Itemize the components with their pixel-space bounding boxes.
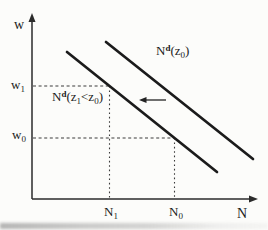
curve-z0-paren: (z (170, 43, 180, 58)
curve-z0-superscript-d: d (165, 43, 170, 53)
y-axis-label: w (14, 18, 24, 32)
demand-curve-z0-label: Nd(z0) (156, 44, 189, 57)
curve-z1-base: N (52, 89, 61, 104)
curve-z1-lessthan: <z (81, 89, 94, 104)
curve-z0-base: N (156, 43, 165, 58)
n1-base: N (104, 204, 113, 219)
x-axis-arrowhead (249, 196, 258, 203)
curve-z1-close: ) (99, 89, 103, 104)
n0-subscript: 0 (178, 211, 183, 221)
n0-tick-label: N0 (169, 205, 183, 218)
labor-demand-shift-diagram: w N w1 w0 N1 N0 Nd(z0) Nd(z1<z0) (0, 0, 268, 230)
n1-tick-label: N1 (104, 205, 118, 218)
w1-subscript: 1 (20, 84, 25, 94)
y-axis-arrowhead (29, 13, 36, 22)
w0-base: w (12, 127, 21, 142)
curve-z1-subscript-0: 0 (94, 96, 99, 106)
x-axis-label: N (237, 207, 247, 221)
n0-base: N (169, 204, 178, 219)
w0-tick-label: w0 (12, 128, 26, 141)
scan-artifact (0, 223, 268, 229)
curve-z1-paren: (z (66, 89, 76, 104)
curve-z1-subscript-1: 1 (77, 96, 82, 106)
shift-arrow-head (139, 97, 147, 103)
demand-curve-z1-label: Nd(z1<z0) (52, 90, 103, 103)
figure-canvas (0, 0, 268, 230)
w0-subscript: 0 (21, 134, 26, 144)
w1-base: w (11, 77, 20, 92)
w1-tick-label: w1 (11, 78, 25, 91)
curve-z0-subscript: 0 (181, 50, 186, 60)
curve-z1-superscript-d: d (61, 89, 66, 99)
n1-subscript: 1 (113, 211, 118, 221)
curve-z0-close: ) (185, 43, 189, 58)
